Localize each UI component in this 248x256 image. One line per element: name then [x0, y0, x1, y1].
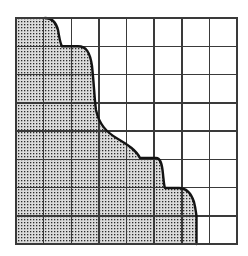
- grid-figure-svg: [0, 0, 248, 256]
- figure-container: [0, 0, 248, 256]
